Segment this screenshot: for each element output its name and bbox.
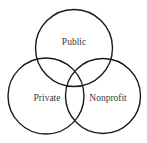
label-nonprofit: Nonprofit xyxy=(89,93,126,103)
circle-public xyxy=(36,10,113,87)
label-private: Private xyxy=(34,93,61,103)
venn-diagram xyxy=(0,0,147,143)
label-public: Public xyxy=(62,37,86,47)
